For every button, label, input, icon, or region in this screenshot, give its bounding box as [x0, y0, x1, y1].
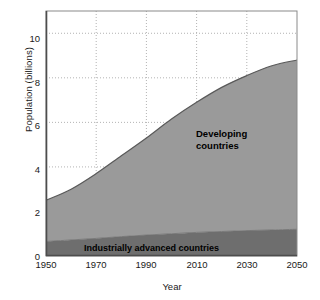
x-tick-label-1950: 1950 [26, 259, 66, 270]
x-axis-title: Year [46, 281, 298, 292]
x-tick-label-2030: 2030 [227, 259, 267, 270]
x-tick-label-2010: 2010 [177, 259, 217, 270]
y-tick-label-6: 6 [14, 120, 40, 131]
y-tick-label-2: 2 [14, 207, 40, 218]
developing-countries-label-line1: Developing [196, 128, 247, 140]
industrially-advanced-countries-label: Industrially advanced countries [84, 243, 219, 253]
x-tick-label-2050: 2050 [277, 259, 317, 270]
x-tick-label-1970: 1970 [76, 259, 116, 270]
y-tick-label-8: 8 [14, 77, 40, 88]
developing-countries-label-line2: countries [196, 140, 247, 152]
y-tick-label-4: 4 [14, 164, 40, 175]
developing-countries-label: Developing countries [196, 128, 247, 152]
y-tick-label-10: 10 [14, 33, 40, 44]
plot-area [0, 0, 320, 300]
population-projection-chart: Population (billions) 10 8 6 4 2 0 1950 … [0, 0, 320, 300]
x-tick-label-1990: 1990 [126, 259, 166, 270]
